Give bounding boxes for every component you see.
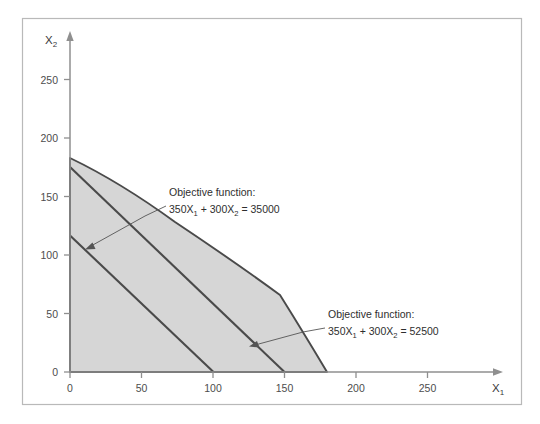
- x-tick-label-200: 200: [347, 382, 365, 394]
- y-tick-label-100: 100: [40, 249, 58, 261]
- y-axis-title-subscript: 2: [53, 40, 58, 49]
- annotation-35000-term-c: = 35000: [239, 203, 280, 215]
- y-tick-label-50: 50: [46, 308, 58, 320]
- y-tick-label-250: 250: [40, 74, 58, 86]
- annotation-52500-term-a: 350X: [328, 325, 353, 337]
- annotation-35000-term-b: + 300X: [198, 203, 235, 215]
- annotation-52500-term-c: = 52500: [398, 325, 439, 337]
- annotation-52500-term-b: + 300X: [357, 325, 394, 337]
- x-axis-title-subscript: 1: [500, 388, 505, 397]
- x-tick-label-0: 0: [67, 382, 73, 394]
- y-tick-label-0: 0: [52, 366, 58, 378]
- x-tick-label-50: 50: [136, 382, 148, 394]
- annotation-52500-line1: Objective function:: [328, 308, 414, 320]
- y-tick-label-200: 200: [40, 132, 58, 144]
- x-tick-label-250: 250: [419, 382, 437, 394]
- x-tick-label-100: 100: [204, 382, 222, 394]
- linear-programming-chart: 0 50 100 150 200 250 0 50 100 150 200 25…: [0, 0, 540, 424]
- annotation-35000-term-a: 350X: [169, 203, 194, 215]
- y-tick-label-150: 150: [40, 191, 58, 203]
- x-tick-label-150: 150: [276, 382, 294, 394]
- annotation-35000-line1: Objective function:: [169, 186, 255, 198]
